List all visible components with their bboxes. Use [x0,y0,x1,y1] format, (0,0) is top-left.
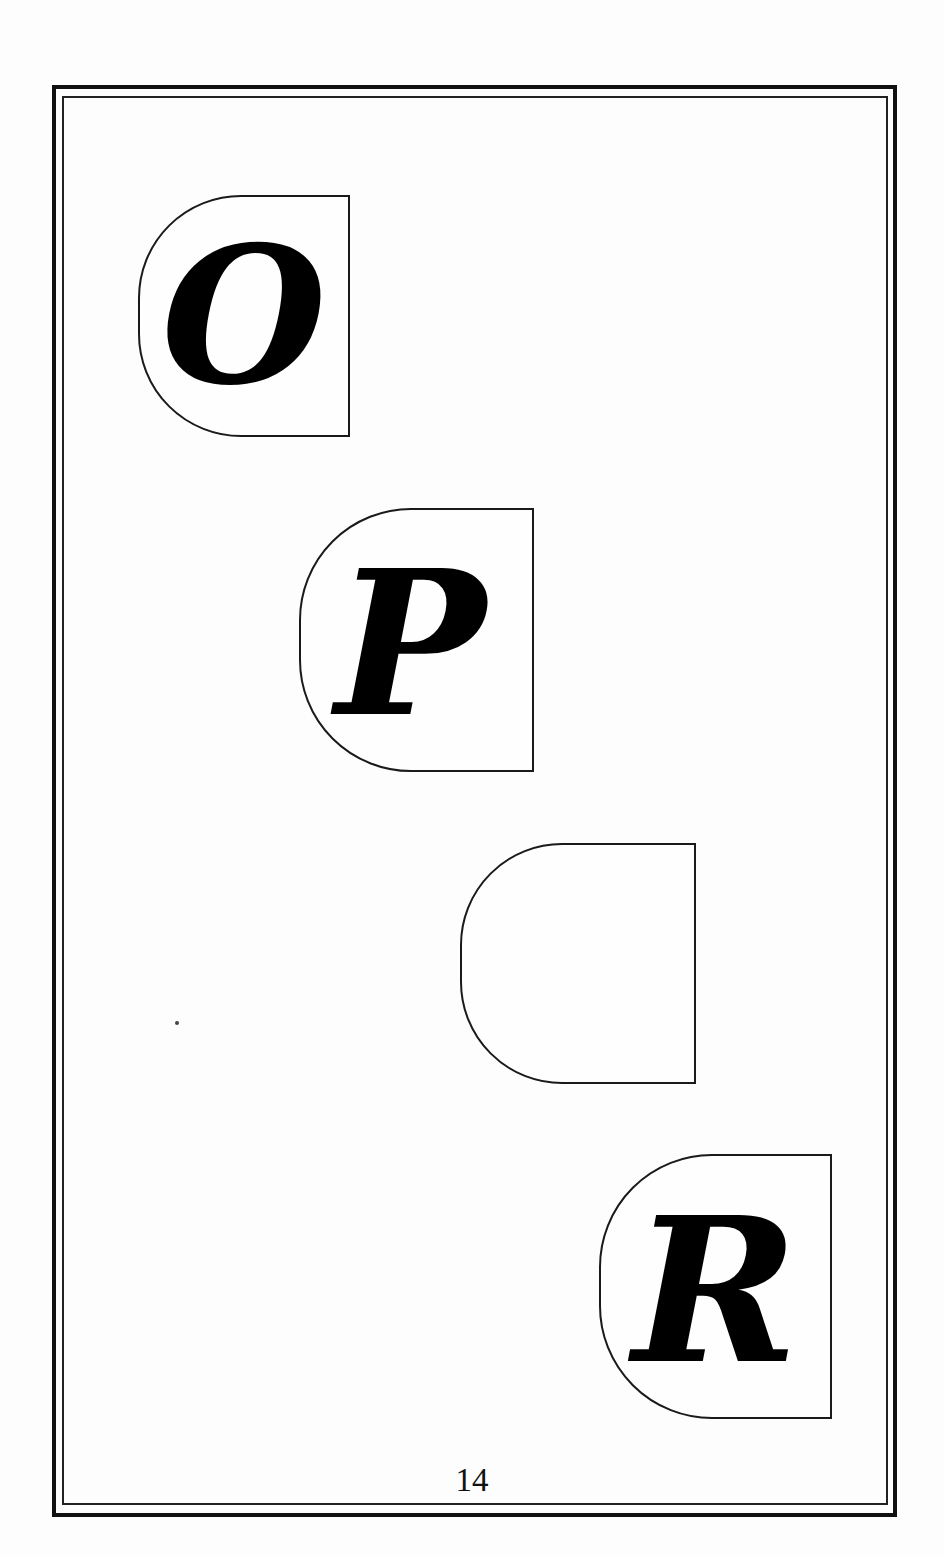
letter-tile-o: O [138,195,350,437]
letter-tile-blank [460,843,696,1084]
scan-speck [175,1021,179,1025]
letter-blank [462,845,694,1082]
letter-r: R [601,1160,830,1421]
letter-p: P [295,514,526,774]
letter-tile-p: P [299,508,534,772]
letter-tile-r: R [599,1154,832,1419]
letter-o: O [140,197,348,435]
page-number: 14 [0,1462,944,1499]
